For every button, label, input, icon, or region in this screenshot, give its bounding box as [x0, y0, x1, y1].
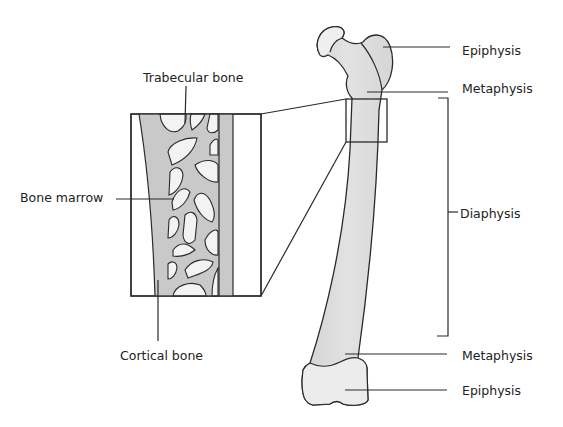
label-cortical-bone: Cortical bone	[120, 348, 203, 363]
label-epiphysis-bottom: Epiphysis	[462, 383, 521, 398]
magnify-line-top	[261, 99, 346, 114]
label-epiphysis-top: Epiphysis	[462, 43, 521, 58]
label-trabecular-bone: Trabecular bone	[142, 70, 244, 85]
label-metaphysis-bottom: Metaphysis	[462, 348, 533, 363]
diaphysis-bracket	[437, 98, 448, 336]
femur	[302, 27, 393, 406]
label-metaphysis-top: Metaphysis	[462, 81, 533, 96]
femur-outline	[302, 27, 393, 406]
inset-section	[131, 114, 261, 296]
label-bone-marrow: Bone marrow	[20, 190, 103, 205]
label-diaphysis: Diaphysis	[460, 206, 521, 221]
bone-structure-diagram: Trabecular bone Bone marrow Cortical bon…	[0, 0, 563, 427]
